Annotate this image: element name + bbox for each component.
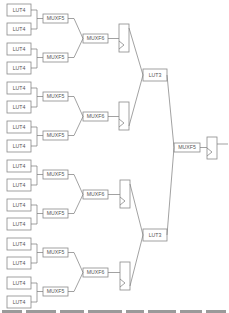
muxf5-block: MUXF5 xyxy=(43,92,68,101)
lut4-block-label: LUT4 xyxy=(13,280,26,286)
lut4-block-label: LUT4 xyxy=(13,241,26,247)
muxf6-block-label: MUXF6 xyxy=(87,113,105,119)
lut4-block: LUT4 xyxy=(7,257,31,269)
muxf5-block: MUXF5 xyxy=(43,14,68,23)
wire xyxy=(129,75,143,126)
muxf5-block-label: MUXF5 xyxy=(47,288,65,294)
lut4-block: LUT4 xyxy=(7,82,31,94)
lut4-block: LUT4 xyxy=(7,23,31,35)
lut4-block: LUT4 xyxy=(7,238,31,250)
lut4-block: LUT4 xyxy=(7,277,31,289)
lut4-block-label: LUT4 xyxy=(13,104,26,110)
muxf5-block: MUXF5 xyxy=(43,170,68,179)
wire xyxy=(31,49,37,68)
lut4-block-label: LUT4 xyxy=(13,260,26,266)
wire xyxy=(31,88,37,107)
lut4-block: LUT4 xyxy=(7,101,31,113)
lut3-block-label: LUT3 xyxy=(149,72,162,78)
wire xyxy=(68,19,83,39)
lut3-block: LUT3 xyxy=(143,69,167,81)
wire xyxy=(31,283,37,302)
muxf5-block: MUXF5 xyxy=(43,248,68,257)
wire xyxy=(68,39,83,58)
lut3-block-label: LUT3 xyxy=(149,232,162,238)
muxf5-block-label: MUXF5 xyxy=(47,54,65,60)
lut3-block: LUT3 xyxy=(143,229,167,241)
final-mux-block: MUXF5 xyxy=(174,143,200,152)
wire xyxy=(130,235,143,286)
lut4-block-label: LUT4 xyxy=(13,182,26,188)
lut4-block: LUT4 xyxy=(7,218,31,230)
lut4-block: LUT4 xyxy=(7,121,31,133)
output-flip-flop xyxy=(207,137,217,159)
wire xyxy=(31,205,37,224)
lut4-block-label: LUT4 xyxy=(13,221,26,227)
muxf5-block: MUXF5 xyxy=(43,287,68,296)
muxf6-block: MUXF6 xyxy=(83,112,108,121)
lut4-block-label: LUT4 xyxy=(13,46,26,52)
wire xyxy=(167,75,174,148)
lut4-block: LUT4 xyxy=(7,140,31,152)
lut4-block-label: LUT4 xyxy=(13,202,26,208)
lut4-block-label: LUT4 xyxy=(13,65,26,71)
muxf6-block-label: MUXF6 xyxy=(87,35,105,41)
muxf6-block: MUXF6 xyxy=(83,34,108,43)
lut4-block-label: LUT4 xyxy=(13,7,26,13)
wire xyxy=(167,148,174,236)
wire xyxy=(68,195,83,214)
muxf5-block-label: MUXF5 xyxy=(47,132,65,138)
lut4-block: LUT4 xyxy=(7,160,31,172)
lut4-block-label: LUT4 xyxy=(13,85,26,91)
wire xyxy=(68,97,83,117)
final-mux-block-label: MUXF5 xyxy=(178,144,196,150)
wire xyxy=(130,184,143,235)
lut4-block: LUT4 xyxy=(7,179,31,191)
wire xyxy=(68,253,83,273)
muxf6-block: MUXF6 xyxy=(83,268,108,277)
lut4-block-label: LUT4 xyxy=(13,26,26,32)
wire xyxy=(31,244,37,263)
muxf5-block-label: MUXF5 xyxy=(47,93,65,99)
muxf6-block-label: MUXF6 xyxy=(87,269,105,275)
wire xyxy=(129,28,143,75)
muxf6-block: MUXF6 xyxy=(83,190,108,199)
lut4-block-label: LUT4 xyxy=(13,299,26,305)
wire xyxy=(31,166,37,185)
muxf5-block-label: MUXF5 xyxy=(47,210,65,216)
lut4-block: LUT4 xyxy=(7,4,31,16)
wire xyxy=(68,117,83,136)
lut4-block: LUT4 xyxy=(7,43,31,55)
lut4-block: LUT4 xyxy=(7,62,31,74)
muxf5-block: MUXF5 xyxy=(43,53,68,62)
lut4-block-label: LUT4 xyxy=(13,163,26,169)
wire xyxy=(68,273,83,292)
lut4-block-label: LUT4 xyxy=(13,124,26,130)
muxf5-block: MUXF5 xyxy=(43,131,68,140)
mux-tree-diagram: LUT4LUT4LUT4LUT4LUT4LUT4LUT4LUT4LUT4LUT4… xyxy=(0,0,229,313)
wire xyxy=(68,175,83,195)
muxf6-block-label: MUXF6 xyxy=(87,191,105,197)
figure-caption-clipped xyxy=(0,305,229,313)
muxf5-block: MUXF5 xyxy=(43,209,68,218)
muxf5-block-label: MUXF5 xyxy=(47,171,65,177)
lut4-block: LUT4 xyxy=(7,199,31,211)
muxf5-block-label: MUXF5 xyxy=(47,249,65,255)
wire xyxy=(31,127,37,146)
lut4-block-label: LUT4 xyxy=(13,143,26,149)
muxf5-block-label: MUXF5 xyxy=(47,15,65,21)
wire xyxy=(31,10,37,29)
